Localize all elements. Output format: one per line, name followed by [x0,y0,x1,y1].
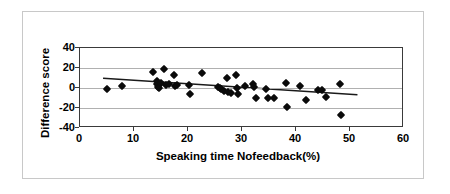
y-axis-tick-labels: -40-2002040 [43,47,75,127]
x-axis-tick-labels: 0102030405060 [79,132,403,146]
x-tick-mark [241,127,242,131]
x-tick-label: 20 [172,132,202,144]
x-tick-label: 60 [388,132,418,144]
gridline [80,68,402,69]
x-tick-mark [187,127,188,131]
gridline [80,108,402,109]
y-tick-mark [75,47,79,48]
y-tick-mark [75,107,79,108]
y-tick-mark [75,67,79,68]
x-tick-label: 40 [280,132,310,144]
chart-figure: Difference score -40-2002040 01020304050… [22,11,424,179]
x-tick-label: 10 [118,132,148,144]
y-tick-label: 0 [49,82,75,93]
x-tick-label: 30 [226,132,256,144]
y-tick-label: -40 [49,122,75,133]
x-axis-label: Speaking time Nofeedback(%) [63,150,413,162]
x-tick-label: 0 [64,132,94,144]
x-tick-label: 50 [334,132,364,144]
y-tick-mark [75,127,79,128]
y-tick-mark [75,87,79,88]
x-tick-mark [133,127,134,131]
y-tick-label: 40 [49,42,75,53]
x-tick-mark [349,127,350,131]
plot-area [79,47,403,127]
y-tick-label: 20 [49,62,75,73]
x-tick-mark [295,127,296,131]
y-tick-label: -20 [49,102,75,113]
